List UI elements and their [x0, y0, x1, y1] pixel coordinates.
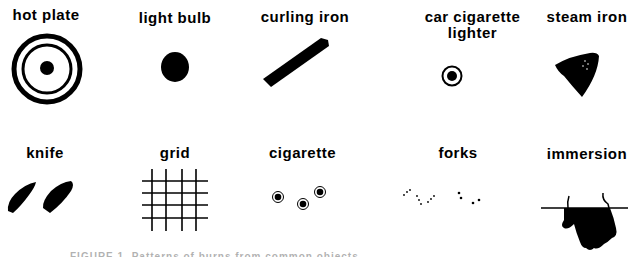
label-line2: lighter: [400, 25, 545, 41]
knife-blades-icon: [5, 178, 77, 218]
label-immersion: immersion: [540, 146, 634, 162]
label-cigarette: cigarette: [260, 145, 345, 161]
ringed-dot-icon: [440, 64, 464, 88]
grid-lines-icon: [140, 168, 210, 232]
label-curling-iron: curling iron: [250, 9, 360, 25]
label-forks: forks: [428, 145, 488, 161]
label-grid: grid: [145, 145, 205, 161]
label-line1: car cigarette: [400, 9, 545, 25]
iron-shape-icon: [552, 50, 602, 100]
label-car-cigarette-lighter: car cigarette lighter: [400, 9, 545, 41]
figure-caption: FIGURE 1. Patterns of burns from common …: [70, 251, 359, 258]
diagonal-bar-icon: [260, 35, 335, 90]
label-hot-plate: hot plate: [0, 7, 92, 23]
filled-dot-icon: [158, 50, 192, 84]
dot-clusters-icon: [398, 187, 488, 212]
three-ringed-dots-icon: [270, 183, 330, 213]
concentric-rings-icon: [10, 32, 84, 106]
label-light-bulb: light bulb: [125, 10, 225, 26]
immersed-hand-icon: [538, 190, 634, 258]
label-steam-iron: steam iron: [540, 9, 634, 25]
label-knife: knife: [10, 145, 80, 161]
